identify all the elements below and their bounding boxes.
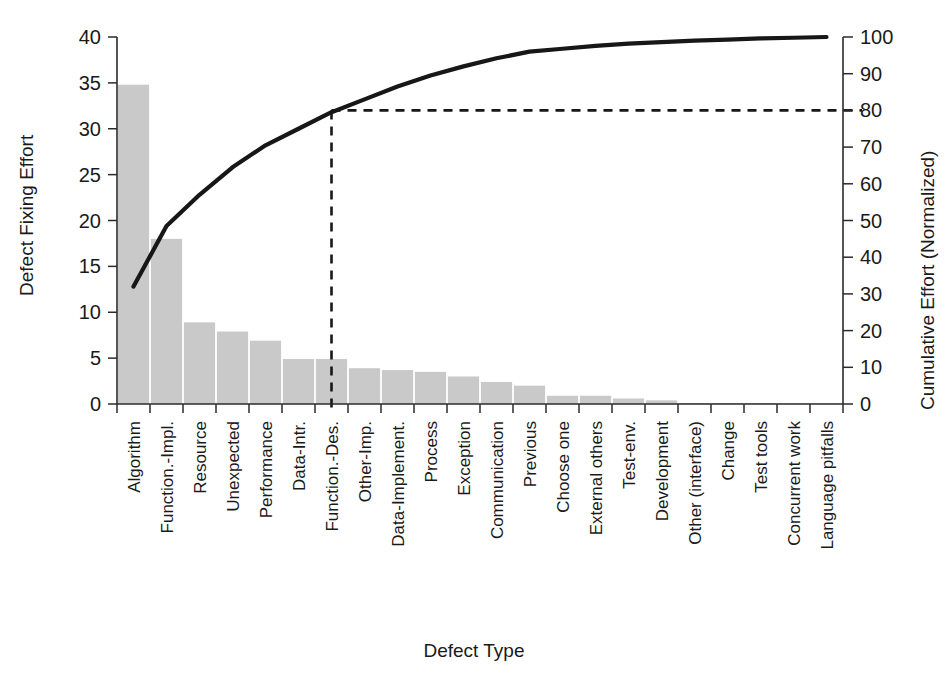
- left-axis-tick-label: 10: [79, 301, 101, 323]
- bar: [514, 386, 545, 404]
- bar: [580, 396, 611, 404]
- category-tick-label: Development: [653, 421, 672, 521]
- bottom-axis-title: Defect Type: [423, 640, 524, 661]
- bar: [250, 341, 281, 404]
- right-axis-tick-label: 50: [860, 210, 882, 232]
- category-tick-label: Other (interface): [686, 421, 705, 545]
- category-tick-label: Language pitfalls: [818, 421, 837, 550]
- right-axis-tick-label: 80: [860, 99, 882, 121]
- bar: [349, 368, 380, 404]
- category-tick-label: Unexpected: [224, 421, 243, 512]
- category-tick-label: Exception: [455, 421, 474, 496]
- left-axis-tick-label: 20: [79, 210, 101, 232]
- left-axis-tick-label: 0: [90, 393, 101, 415]
- chart-canvas: 0510152025303540 0102030405060708090100 …: [0, 0, 949, 681]
- bar: [415, 372, 446, 404]
- category-tick-label: Change: [719, 421, 738, 481]
- right-axis-tick-label: 20: [860, 320, 882, 342]
- left-axis-tick-label: 5: [90, 347, 101, 369]
- right-axis-tick-label: 40: [860, 246, 882, 268]
- right-axis-tick-label: 0: [860, 393, 871, 415]
- category-tick-label: Concurrent work: [785, 421, 804, 546]
- bar: [283, 359, 314, 404]
- category-tick-label: Previous: [521, 421, 540, 487]
- left-axis-tick-label: 35: [79, 72, 101, 94]
- category-tick-label: Function.-Impl.: [158, 421, 177, 533]
- right-axis-tick-label: 60: [860, 173, 882, 195]
- right-axis-tick-label: 10: [860, 356, 882, 378]
- bar: [151, 239, 182, 404]
- category-tick-label: Resource: [191, 421, 210, 494]
- category-tick-label: Data-Intr.: [290, 421, 309, 491]
- bar: [481, 382, 512, 404]
- bar: [184, 322, 215, 404]
- category-tick-label: Other-Imp.: [356, 421, 375, 502]
- category-tick-label: External others: [587, 421, 606, 535]
- bar: [547, 396, 578, 404]
- category-tick-label: Test-env.: [620, 421, 639, 489]
- pareto-chart: 0510152025303540 0102030405060708090100 …: [0, 0, 949, 681]
- bar: [316, 359, 347, 404]
- right-axis-title: Cumulative Effort (Normalized): [917, 151, 938, 410]
- category-tick-label: Test tools: [752, 421, 771, 493]
- left-axis-tick-label: 30: [79, 118, 101, 140]
- bar: [613, 399, 644, 405]
- bar: [382, 370, 413, 404]
- left-axis-title: Defect Fixing Effort: [16, 134, 37, 296]
- category-tick-label: Performance: [257, 421, 276, 518]
- bar: [448, 376, 479, 404]
- category-tick-label: Algorithm: [125, 421, 144, 493]
- category-tick-label: Choose one: [554, 421, 573, 513]
- bar: [217, 332, 248, 404]
- left-axis-tick-label: 25: [79, 164, 101, 186]
- category-tick-label: Data-Implement.: [389, 421, 408, 547]
- bar: [118, 85, 149, 404]
- right-axis-tick-label: 70: [860, 136, 882, 158]
- left-axis-tick-label: 15: [79, 255, 101, 277]
- category-tick-label: Communication: [488, 421, 507, 539]
- category-tick-label: Process: [422, 421, 441, 482]
- right-axis-tick-label: 30: [860, 283, 882, 305]
- right-axis-tick-label: 90: [860, 63, 882, 85]
- right-axis-tick-label: 100: [860, 26, 893, 48]
- left-axis-tick-label: 40: [79, 26, 101, 48]
- category-tick-label: Function.-Des.: [323, 421, 342, 532]
